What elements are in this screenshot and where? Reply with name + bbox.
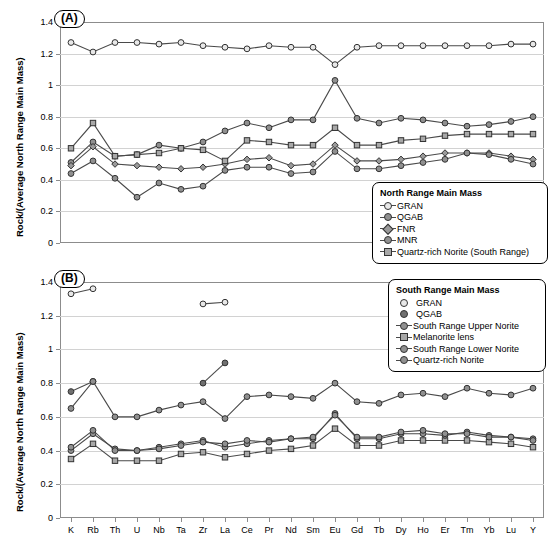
panel-b-legend: South Range Main Mass GRANQGABSouth Rang… — [388, 279, 546, 372]
data-point — [266, 139, 271, 144]
data-point — [90, 286, 96, 292]
x-tick-mark — [533, 518, 534, 522]
data-point — [332, 149, 338, 155]
data-point — [530, 445, 535, 450]
legend-label: FNR — [397, 224, 416, 234]
legend-marker-icon — [380, 223, 396, 234]
legend-item-gran[interactable]: GRAN — [396, 297, 538, 309]
data-point — [178, 146, 183, 151]
data-point — [354, 434, 360, 440]
data-point — [530, 131, 535, 136]
data-point — [530, 114, 536, 120]
data-point — [156, 164, 163, 171]
data-point — [420, 427, 426, 433]
panel-a-label: (A) — [54, 10, 85, 28]
x-tick-label-th: Th — [110, 525, 121, 535]
series-line — [71, 80, 533, 162]
data-point — [222, 360, 228, 366]
data-point — [200, 139, 206, 145]
legend-marker-icon — [396, 355, 412, 366]
data-point — [442, 431, 448, 437]
x-tick-label-y: Y — [530, 525, 536, 535]
data-point — [244, 138, 249, 143]
legend-label: South Range Upper Norite — [413, 321, 519, 331]
x-tick-mark — [269, 518, 270, 522]
data-point — [508, 156, 514, 162]
series-gran — [68, 40, 536, 68]
x-tick-label-ce: Ce — [241, 525, 253, 535]
data-point — [266, 392, 272, 398]
legend-item-south-range-lower-norite[interactable]: South Range Lower Norite — [396, 343, 538, 355]
data-point — [134, 194, 140, 200]
data-point — [156, 458, 161, 463]
data-point — [266, 448, 271, 453]
data-point — [134, 40, 140, 46]
data-point — [464, 123, 470, 129]
legend-marker-icon — [380, 212, 396, 223]
legend-item-gran[interactable]: GRAN — [380, 200, 540, 212]
data-point — [244, 156, 251, 163]
data-point — [508, 392, 514, 398]
data-point — [200, 439, 206, 445]
legend-label: QGAB — [397, 212, 423, 222]
data-point — [134, 152, 139, 157]
legend-label: Melanorite lens — [413, 332, 474, 342]
data-point — [200, 450, 205, 455]
legend-label: South Range Lower Norite — [413, 344, 519, 354]
legend-item-qgab[interactable]: QGAB — [396, 309, 538, 321]
data-point — [332, 62, 338, 68]
data-point — [68, 444, 74, 450]
data-point — [310, 434, 316, 440]
legend-item-fnr[interactable]: FNR — [380, 223, 540, 235]
data-point — [288, 142, 293, 147]
data-point — [508, 434, 514, 440]
data-point — [376, 120, 382, 126]
data-point — [288, 162, 295, 169]
x-tick-mark — [203, 518, 204, 522]
x-tick-label-k: K — [68, 525, 74, 535]
panel-b-legend-title: South Range Main Mass — [396, 285, 538, 295]
x-tick-mark — [291, 518, 292, 522]
x-tick-label-lu: Lu — [506, 525, 516, 535]
data-point — [442, 133, 447, 138]
data-point — [68, 456, 73, 461]
data-point — [398, 438, 403, 443]
data-point — [178, 166, 185, 173]
x-tick-label-tm: Tm — [461, 525, 474, 535]
x-tick-mark — [71, 518, 72, 522]
legend-item-melanorite-lens[interactable]: Melanorite lens — [396, 332, 538, 344]
x-tick-mark — [379, 518, 380, 522]
data-point — [464, 150, 470, 156]
legend-label: QGAB — [416, 309, 442, 319]
data-point — [486, 43, 492, 49]
data-point — [68, 171, 74, 177]
data-point — [288, 44, 294, 50]
legend-item-quartz-rich-norite[interactable]: Quartz-rich Norite — [396, 355, 538, 367]
x-tick-mark — [225, 518, 226, 522]
x-tick-mark — [423, 518, 424, 522]
data-point — [486, 131, 491, 136]
legend-marker-icon — [396, 320, 412, 331]
panel-a: Rock/(Average North Range Main Mass) 00.… — [0, 0, 550, 272]
data-point — [398, 43, 404, 49]
x-tick-label-nd: Nd — [285, 525, 297, 535]
x-tick-mark — [159, 518, 160, 522]
data-point — [90, 441, 95, 446]
legend-item-south-range-upper-norite[interactable]: South Range Upper Norite — [396, 320, 538, 332]
data-point — [486, 152, 492, 158]
data-point — [156, 407, 162, 413]
data-point — [200, 164, 207, 171]
data-point — [398, 163, 404, 169]
x-tick-label-la: La — [220, 525, 230, 535]
legend-item-quartz-rich-norite-south-range-[interactable]: Quartz-rich Norite (South Range) — [380, 246, 540, 258]
data-point — [332, 125, 337, 130]
series-line — [71, 381, 93, 391]
data-point — [530, 385, 536, 391]
data-point — [156, 180, 162, 186]
legend-item-mnr[interactable]: MNR — [380, 235, 540, 247]
data-point — [244, 438, 250, 444]
legend-marker-icon — [380, 235, 396, 246]
data-point — [222, 441, 228, 447]
legend-item-qgab[interactable]: QGAB — [380, 212, 540, 224]
data-point — [354, 115, 360, 121]
